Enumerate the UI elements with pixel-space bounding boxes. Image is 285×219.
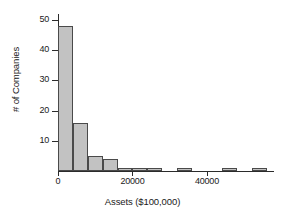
y-tick-label: 10 — [27, 136, 49, 145]
histogram-bar — [118, 168, 133, 171]
histogram-bar — [177, 168, 192, 171]
x-axis-title: Assets ($100,000) — [0, 196, 285, 207]
x-tick-label: 0 — [35, 176, 81, 186]
x-tick-label: 40000 — [184, 176, 230, 186]
y-tick-label: 30 — [27, 75, 49, 84]
x-tick-label: 20000 — [109, 176, 155, 186]
y-axis-title: # of Companies — [10, 20, 21, 140]
y-tick-label: 50 — [27, 15, 49, 24]
histogram-bar — [132, 168, 147, 171]
histogram-bar — [73, 123, 88, 171]
histogram-bar — [58, 26, 73, 171]
histogram-bar — [252, 168, 267, 171]
histogram-bar — [103, 159, 118, 171]
y-tick-label: 20 — [27, 106, 49, 115]
histogram-bar — [147, 168, 162, 171]
histogram-bars — [58, 14, 274, 171]
x-axis-line — [58, 171, 274, 172]
histogram-figure: 1020304050 02000040000 Assets ($100,000)… — [0, 0, 285, 219]
histogram-bar — [222, 168, 237, 171]
y-tick-label: 40 — [27, 45, 49, 54]
histogram-bar — [88, 156, 103, 171]
